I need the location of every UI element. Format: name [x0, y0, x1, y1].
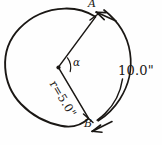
arc-length-label: 10.0": [118, 64, 154, 77]
circle-outline: [5, 9, 95, 127]
geometry-figure: A B α r=5.0" 10.0": [0, 0, 162, 145]
angle-alpha-label: α: [73, 57, 80, 68]
dimension-arrowhead-bottom-barb-lower: [92, 131, 102, 132]
angle-arc: [68, 58, 71, 72]
point-a-label: A: [88, 0, 96, 9]
point-b-label: B: [84, 118, 92, 129]
